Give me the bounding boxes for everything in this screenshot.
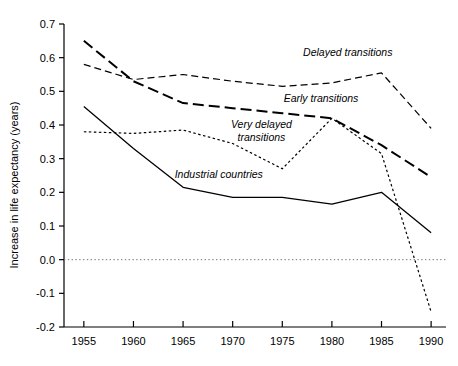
x-tick-label: 1975 (270, 335, 294, 347)
y-tick-label: 0.0 (40, 254, 55, 266)
y-tick-label: -0.1 (36, 287, 55, 299)
y-tick-label: 0.7 (40, 18, 55, 30)
chart-container: Increase in life expectancy (years) -0.2… (0, 0, 458, 366)
y-tick-label: 0.5 (40, 85, 55, 97)
series-annotation-label: Very delayed (231, 118, 293, 130)
y-axis-title: Increase in life expectancy (years) (8, 102, 20, 269)
line-chart: Increase in life expectancy (years) -0.2… (0, 0, 458, 366)
y-tick-label: 0.4 (40, 119, 55, 131)
x-tick-label: 1955 (72, 335, 96, 347)
series-annotation-label: Early transitions (284, 92, 359, 104)
y-tick-label: 0.1 (40, 220, 55, 232)
x-tick-label: 1980 (320, 335, 344, 347)
y-tick-label: -0.2 (36, 321, 55, 333)
x-tick-label: 1965 (171, 335, 195, 347)
series-annotation-label: Industrial countries (175, 168, 264, 180)
series-annotation-label: transitions (238, 131, 287, 143)
x-tick-label: 1960 (121, 335, 145, 347)
x-tick-label: 1990 (419, 335, 443, 347)
x-tick-label: 1970 (220, 335, 244, 347)
y-tick-label: 0.2 (40, 186, 55, 198)
x-tick-label: 1985 (369, 335, 393, 347)
y-tick-label: 0.6 (40, 52, 55, 64)
series-annotation-label: Delayed transitions (303, 46, 393, 58)
y-tick-label: 0.3 (40, 153, 55, 165)
